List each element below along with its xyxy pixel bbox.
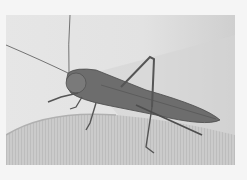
head — [66, 73, 86, 93]
grasshopper-photo-graphic — [6, 15, 235, 165]
photo: Black and white photo of a long-horned g… — [6, 15, 235, 165]
